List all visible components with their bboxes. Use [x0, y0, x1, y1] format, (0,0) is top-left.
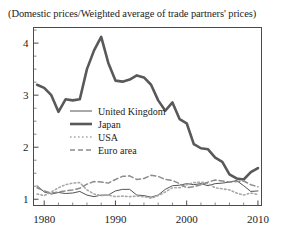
series-layer [37, 37, 258, 198]
chart-figure: (Domestic prices/Weighted average of tra… [0, 0, 287, 246]
chart-svg: 1234 1980199020002010 United KingdomJapa… [0, 0, 287, 246]
y-axis-tick-label: 4 [23, 37, 29, 49]
y-axis-tick-label: 2 [23, 141, 29, 153]
legend-label-usa: USA [98, 132, 119, 143]
x-major-ticks [44, 201, 258, 206]
y-tick-labels: 1234 [23, 37, 29, 205]
x-axis-tick-label: 2010 [247, 213, 270, 225]
legend-label-united-kingdom: United Kingdom [98, 106, 166, 117]
chart-legend: United KingdomJapanUSAEuro area [70, 106, 166, 156]
y-axis-tick-label: 3 [23, 89, 29, 101]
y-axis-tick-label: 1 [23, 193, 29, 205]
legend-label-japan: Japan [98, 119, 121, 130]
plot-area: 1234 1980199020002010 United KingdomJapa… [0, 0, 287, 246]
x-axis-tick-label: 1980 [33, 213, 56, 225]
legend-label-euro-area: Euro area [98, 145, 137, 156]
x-axis-tick-label: 1990 [104, 213, 127, 225]
x-axis-tick-label: 2000 [176, 213, 199, 225]
x-tick-labels: 1980199020002010 [33, 213, 269, 225]
